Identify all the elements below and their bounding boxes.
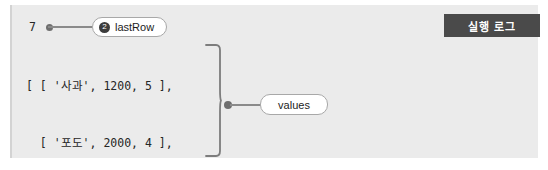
code-line: [ [ '사과', 1200, 5 ], bbox=[26, 77, 191, 96]
grouping-brace-icon bbox=[204, 44, 226, 157]
leader-line-lastrow bbox=[48, 26, 92, 28]
code-result-panel: 7 [ [ '사과', 1200, 5 ], [ '포도', 2000, 4 ]… bbox=[10, 5, 538, 158]
screenshot-root: 7 [ [ '사과', 1200, 5 ], [ '포도', 2000, 4 ]… bbox=[0, 0, 548, 170]
leader-line-values bbox=[230, 104, 261, 106]
code-block: [ [ '사과', 1200, 5 ], [ '포도', 2000, 4 ], … bbox=[26, 39, 191, 170]
callout-lastrow-label: lastRow bbox=[115, 21, 154, 33]
callout-values[interactable]: values bbox=[260, 94, 328, 115]
number-badge-icon: 2 bbox=[99, 22, 110, 33]
line-number-gutter: 7 bbox=[29, 20, 36, 34]
execution-log-button[interactable]: 실행 로그 bbox=[444, 14, 540, 37]
code-line: [ '포도', 2000, 4 ], bbox=[26, 134, 191, 153]
callout-lastrow[interactable]: 2 lastRow bbox=[92, 17, 167, 37]
callout-values-label: values bbox=[278, 99, 310, 111]
